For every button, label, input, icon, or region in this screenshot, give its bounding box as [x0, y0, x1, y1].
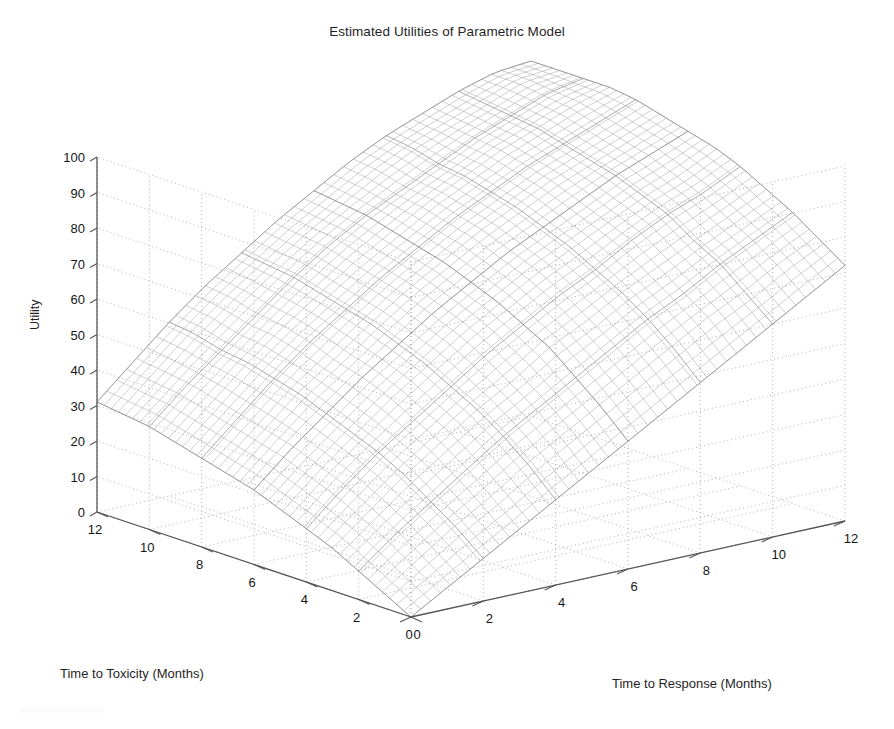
tick-label: 6 [630, 579, 637, 594]
scan-artifact [18, 706, 104, 713]
figure-3d-surface-plot: Estimated Utilities of Parametric Model … [0, 0, 894, 729]
tick-label: 8 [703, 563, 710, 578]
tick-label: 30 [71, 399, 85, 414]
page-title: Estimated Utilities of Parametric Model [0, 24, 894, 39]
tick-label: 40 [71, 363, 85, 378]
tick-label: 0 [78, 505, 85, 520]
tick-label: 0 [413, 627, 420, 642]
tick-label: 0 [405, 627, 412, 642]
back-wall-gridlines [97, 157, 845, 617]
tick-label: 100 [63, 150, 85, 165]
tick-label: 20 [71, 434, 85, 449]
tick-label: 90 [71, 186, 85, 201]
tick-label: 4 [558, 595, 565, 610]
tick-label: 10 [140, 540, 154, 555]
axis-lines [97, 157, 845, 617]
y-axis-label: Time to Response (Months) [612, 676, 772, 691]
tick-label: 50 [71, 328, 85, 343]
x-axis-label: Time to Toxicity (Months) [60, 666, 204, 681]
tick-label: 60 [71, 292, 85, 307]
tick-label: 2 [353, 610, 360, 625]
tick-label: 70 [71, 257, 85, 272]
z-axis-label: Utility [28, 299, 42, 330]
plot-canvas: 0102030405060708090100024681012024681012 [0, 0, 894, 729]
tick-label: 2 [486, 611, 493, 626]
tick-label: 80 [71, 221, 85, 236]
tick-label: 4 [301, 592, 308, 607]
surface-mesh [97, 61, 845, 617]
tick-label: 6 [248, 575, 255, 590]
tick-label: 12 [844, 531, 858, 546]
tick-label: 10 [771, 547, 785, 562]
tick-label: 10 [71, 470, 85, 485]
tick-label: 8 [196, 557, 203, 572]
tick-label: 12 [88, 522, 102, 537]
